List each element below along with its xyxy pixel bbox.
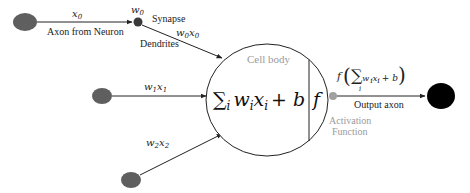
w2x2-label: w2x2 <box>146 137 170 150</box>
x0-label: x0 <box>72 8 83 21</box>
activation-label-line2: Function <box>332 126 368 137</box>
input-node-x0 <box>13 13 37 31</box>
synapse-label: Synapse <box>152 13 186 24</box>
output-formula: f(∑wixi+ b) <box>336 63 406 88</box>
w0x0-label: w0x0 <box>176 27 200 40</box>
w0-label: w0 <box>131 4 145 17</box>
output-axon-label: Output axon <box>354 99 404 110</box>
output-sigma-sub: i <box>359 85 361 93</box>
output-node <box>427 83 455 109</box>
cell-body-label: Cell body <box>247 53 291 65</box>
dendrites-label: Dendrites <box>140 38 179 49</box>
input-node-x1 <box>92 88 112 104</box>
axon-from-neuron-label: Axon from Neuron <box>47 26 124 37</box>
w1x1-label: w1x1 <box>144 81 167 94</box>
synapse-node <box>134 18 143 27</box>
activation-label-line1: Activation <box>329 115 371 126</box>
input-node-x2 <box>121 172 141 188</box>
neuron-diagram: x0 Axon from Neuron w0 Synapse w0x0 Dend… <box>0 0 470 193</box>
activation-node <box>329 92 337 100</box>
